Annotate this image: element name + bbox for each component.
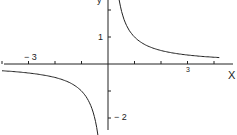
curve-negative-branch xyxy=(2,71,98,135)
x-tick-label-3: 3 xyxy=(186,66,190,73)
hyperbola-chart: y X − 3 3 1 − 2 xyxy=(0,0,237,135)
x-axis-label: X xyxy=(228,70,235,81)
y-tick-label-1: 1 xyxy=(98,33,103,42)
curve-positive-branch xyxy=(119,0,219,58)
y-axis-label: y xyxy=(97,0,102,5)
x-tick-label-neg3: − 3 xyxy=(24,53,37,62)
y-tick-label-neg2: − 2 xyxy=(114,113,127,122)
